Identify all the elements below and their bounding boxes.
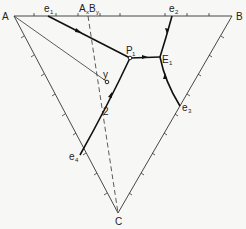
label-y: y bbox=[103, 69, 108, 80]
label-e4: e 4 bbox=[69, 151, 79, 163]
ticks-BC bbox=[129, 36, 224, 195]
label-P1: P 1 bbox=[126, 45, 136, 57]
label-AxBy: A x B y bbox=[79, 3, 99, 15]
ternary-phase-diagram: A B C e 1 A x B y e 2 P 1 E 1 e 3 e 4 y … bbox=[0, 0, 246, 229]
svg-text:A: A bbox=[79, 3, 86, 14]
svg-text:3: 3 bbox=[188, 108, 192, 114]
arrow-e4-P1-icon bbox=[108, 92, 112, 98]
svg-text:2: 2 bbox=[175, 9, 179, 15]
svg-text:E: E bbox=[162, 54, 169, 65]
label-point-2: 2 bbox=[103, 106, 109, 117]
ticks-AC bbox=[21, 36, 107, 195]
label-E1: E 1 bbox=[162, 54, 173, 66]
curve-e1-P1 bbox=[48, 16, 130, 58]
point-y-marker bbox=[105, 80, 109, 84]
label-e2: e 2 bbox=[169, 3, 179, 15]
edge-BC bbox=[118, 16, 232, 213]
arrow-e3-E1-icon bbox=[163, 73, 167, 79]
arrow-P1-E1-icon bbox=[142, 55, 148, 59]
arrowheads bbox=[75, 28, 169, 98]
line-A-y bbox=[14, 16, 106, 81]
svg-text:1: 1 bbox=[132, 51, 136, 57]
svg-text:1: 1 bbox=[50, 9, 54, 15]
svg-text:4: 4 bbox=[75, 157, 79, 163]
triangle-edges bbox=[14, 16, 232, 213]
curve-e2-E1 bbox=[160, 16, 172, 57]
svg-text:y: y bbox=[96, 9, 99, 15]
arrow-e1-P1-icon bbox=[75, 28, 82, 33]
svg-text:1: 1 bbox=[169, 60, 173, 66]
label-e3: e 3 bbox=[182, 102, 192, 114]
label-e1: e 1 bbox=[44, 3, 54, 15]
svg-text:B: B bbox=[89, 3, 96, 14]
vertex-B-label: B bbox=[236, 11, 243, 22]
vertex-C-label: C bbox=[115, 216, 122, 227]
boundary-curves bbox=[48, 16, 180, 155]
vertex-A-label: A bbox=[2, 11, 9, 22]
